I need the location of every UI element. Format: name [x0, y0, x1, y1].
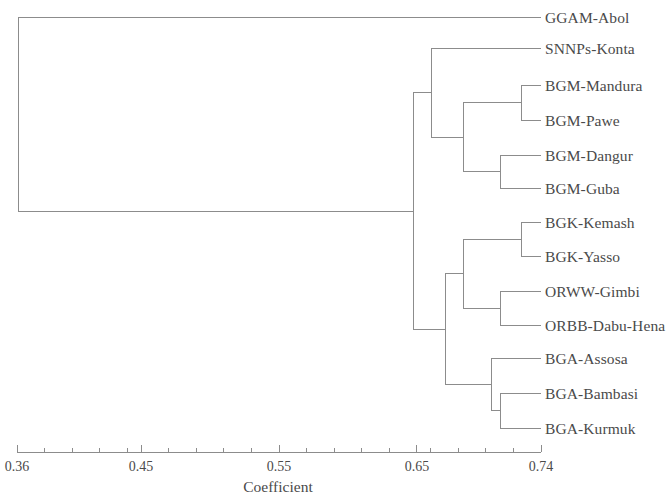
leaf-label: BGM-Dangur — [545, 148, 633, 164]
leaf-label: BGK-Yasso — [545, 249, 620, 265]
x-axis-title: Coefficient — [243, 479, 312, 495]
x-axis-tick-label: 0.74 — [529, 460, 554, 474]
x-axis-tick-label: 0.36 — [5, 460, 30, 474]
leaf-label: BGM-Guba — [545, 181, 620, 197]
leaf-label: BGA-Assosa — [545, 351, 628, 367]
leaf-label: BGM-Mandura — [545, 78, 643, 94]
leaf-label: BGA-Kurmuk — [545, 421, 636, 437]
x-axis-tick-label: 0.65 — [405, 460, 430, 474]
x-axis-tick-label: 0.55 — [267, 460, 292, 474]
leaf-label: GGAM-Abol — [545, 10, 629, 26]
leaf-label: SNNPs-Konta — [545, 41, 635, 57]
leaf-label: BGA-Bambasi — [545, 386, 638, 402]
x-axis-tick-label: 0.45 — [129, 460, 154, 474]
leaf-label: ORWW-Gimbi — [545, 284, 640, 300]
leaf-label: BGM-Pawe — [545, 113, 620, 129]
leaf-label: ORBB-Dabu-Hena — [545, 318, 665, 334]
dendrogram-chart: GGAM-AbolSNNPs-KontaBGM-ManduraBGM-PaweB… — [0, 0, 670, 500]
leaf-label: BGK-Kemash — [545, 215, 635, 231]
